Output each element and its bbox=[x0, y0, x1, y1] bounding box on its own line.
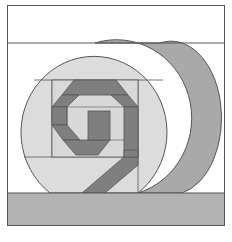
ground-band bbox=[8, 193, 225, 226]
quilt-block-artwork bbox=[0, 0, 232, 242]
